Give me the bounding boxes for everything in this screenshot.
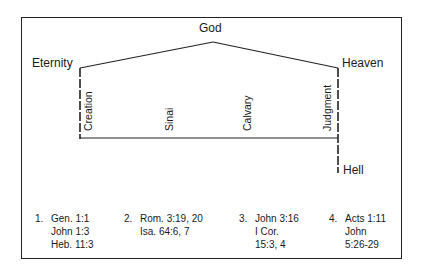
reference-group-2: 2. Rom. 3:19, 20 Isa. 64:6, 7: [124, 212, 203, 238]
event-creation: Creation: [83, 91, 94, 131]
reference-line: Heb. 11:3: [51, 238, 94, 251]
god-label: God: [199, 22, 222, 34]
reference-line: 15:3, 4: [255, 238, 299, 251]
eternity-label: Eternity: [32, 57, 73, 69]
hell-label: Hell: [343, 164, 364, 176]
reference-line: I Cor.: [255, 225, 299, 238]
heaven-label: Heaven: [342, 57, 383, 69]
reference-line: John 1:3: [51, 225, 94, 238]
reference-number: 3.: [239, 212, 255, 251]
reference-number: 1.: [35, 212, 51, 251]
reference-line: John 3:16: [255, 212, 299, 225]
reference-group-4: 4. Acts 1:11 John 5:26-29: [329, 212, 386, 251]
reference-line: John: [345, 225, 386, 238]
reference-group-1: 1. Gen. 1:1 John 1:3 Heb. 11:3: [35, 212, 94, 251]
roof-right-line: [213, 42, 338, 68]
reference-group-3: 3. John 3:16 I Cor. 15:3, 4: [239, 212, 299, 251]
reference-line: Acts 1:11: [345, 212, 386, 225]
reference-number: 2.: [124, 212, 140, 238]
reference-line: 5:26-29: [345, 238, 386, 251]
event-calvary: Calvary: [242, 95, 253, 131]
reference-line: Gen. 1:1: [51, 212, 94, 225]
roof-left-line: [80, 42, 213, 68]
reference-number: 4.: [329, 212, 345, 251]
event-sinai: Sinai: [164, 108, 175, 131]
reference-line: Rom. 3:19, 20: [140, 212, 203, 225]
reference-line: Isa. 64:6, 7: [140, 225, 203, 238]
event-judgment: Judgment: [322, 85, 333, 131]
